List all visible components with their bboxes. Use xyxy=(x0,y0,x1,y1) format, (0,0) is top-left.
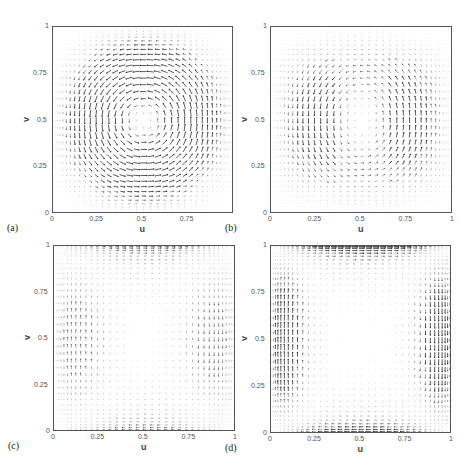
arrow-head xyxy=(383,126,384,127)
vector-arrow xyxy=(425,423,426,424)
arrow-head xyxy=(186,180,187,181)
vector-arrow xyxy=(103,284,104,285)
vector-arrow xyxy=(281,420,282,421)
arrow-head xyxy=(328,248,329,249)
vector-arrow xyxy=(169,65,174,67)
vector-arrow xyxy=(71,418,72,419)
arrow-head xyxy=(120,100,121,101)
arrow-head xyxy=(426,140,427,141)
arrow-head xyxy=(351,431,352,432)
arrow-head xyxy=(420,103,421,104)
arrow-head xyxy=(344,431,345,432)
vector-arrow xyxy=(179,404,180,405)
arrow-head xyxy=(125,164,126,165)
vector-arrow xyxy=(113,161,118,164)
arrow-head xyxy=(212,161,213,162)
arrow-head xyxy=(341,150,342,151)
vector-arrow xyxy=(184,132,186,138)
arrow-head xyxy=(297,164,298,165)
vector-arrow xyxy=(314,279,315,280)
vector-arrow xyxy=(166,310,167,311)
arrow-head xyxy=(189,95,190,96)
arrow-head xyxy=(137,200,138,201)
vector-arrow xyxy=(120,168,126,170)
arrow-head xyxy=(395,58,396,59)
arrow-head xyxy=(115,123,116,124)
arrow-head xyxy=(132,248,133,249)
arrow-head xyxy=(395,82,396,83)
vector-arrow xyxy=(414,273,415,274)
arrow-head xyxy=(307,66,308,67)
arrow-head xyxy=(292,315,293,316)
vector-arrow xyxy=(89,154,91,158)
arrow-head xyxy=(209,340,210,341)
arrow-head xyxy=(214,347,215,348)
arrow-head xyxy=(107,101,108,102)
arrow-head xyxy=(74,93,75,94)
vector-arrow xyxy=(402,389,403,390)
arrow-head xyxy=(297,114,298,115)
arrow-head xyxy=(292,330,293,331)
vector-arrow xyxy=(326,54,328,56)
vector-arrow xyxy=(308,260,310,261)
arrow-head xyxy=(275,289,276,290)
arrow-head xyxy=(312,429,313,430)
vector-arrow xyxy=(173,303,174,304)
arrow-head xyxy=(175,82,176,83)
arrow-head xyxy=(370,168,371,169)
vector-arrow xyxy=(389,191,391,192)
y-tick-label: 0 xyxy=(263,209,267,216)
arrow-head xyxy=(284,373,285,374)
vector-arrow xyxy=(116,268,118,269)
vector-arrow xyxy=(375,59,377,60)
arrow-head xyxy=(403,139,404,140)
arrow-head xyxy=(277,289,278,290)
arrow-head xyxy=(389,96,390,97)
arrow-head xyxy=(80,322,81,323)
vector-arrow xyxy=(426,180,427,182)
vector-arrow xyxy=(415,186,416,188)
arrow-head xyxy=(196,117,197,118)
arrow-head xyxy=(110,181,111,182)
vector-arrow xyxy=(101,76,105,80)
vector-arrow xyxy=(297,263,298,264)
vector-arrow xyxy=(409,196,410,197)
arrow-head xyxy=(131,186,132,187)
vector-arrow xyxy=(150,127,152,129)
vector-arrow xyxy=(85,418,86,419)
arrow-head xyxy=(110,151,111,152)
vector-arrow xyxy=(209,283,210,285)
vector-arrow xyxy=(293,77,294,79)
arrow-head xyxy=(183,102,184,103)
vector-arrow xyxy=(390,41,391,42)
vector-arrow xyxy=(293,186,294,187)
arrow-head xyxy=(126,60,127,61)
arrow-head xyxy=(106,54,107,55)
vector-arrow xyxy=(297,175,298,177)
arrow-head xyxy=(126,85,127,86)
arrow-head xyxy=(166,147,167,148)
arrow-head xyxy=(168,76,169,77)
vector-arrow xyxy=(120,77,126,80)
arrow-head xyxy=(275,295,276,296)
vector-arrow xyxy=(176,168,180,171)
arrow-head xyxy=(284,282,285,283)
arrow-head xyxy=(63,337,64,338)
arrow-head xyxy=(415,250,416,251)
vector-arrow xyxy=(95,140,97,146)
vector-arrow xyxy=(121,104,124,108)
arrow-head xyxy=(395,89,396,90)
arrow-head xyxy=(211,96,212,97)
arrow-head xyxy=(328,176,329,177)
arrow-head xyxy=(377,250,378,251)
arrow-head xyxy=(382,111,383,112)
arrow-head xyxy=(442,327,443,328)
arrow-head xyxy=(292,352,293,353)
arrow-head xyxy=(409,132,410,133)
arrow-head xyxy=(71,315,72,316)
vector-arrow xyxy=(102,110,103,116)
arrow-head xyxy=(100,60,101,61)
arrow-head xyxy=(326,107,327,108)
arrow-head xyxy=(341,170,342,171)
vector-arrow xyxy=(127,155,133,157)
